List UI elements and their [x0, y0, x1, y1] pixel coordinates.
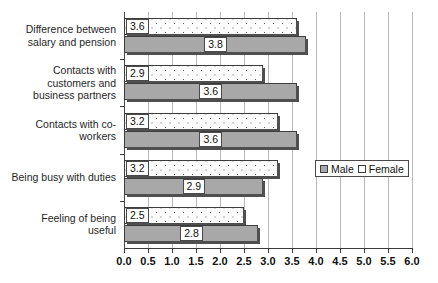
category-label: Feeling of beinguseful [0, 212, 116, 237]
legend-label-male: Male [331, 163, 354, 175]
legend-label-female: Female [369, 163, 404, 175]
legend-swatch-male-icon [320, 165, 328, 173]
category-label: Contacts with co-workers [0, 118, 116, 143]
category-label: Difference betweensalary and pension [0, 23, 116, 48]
group-separator [120, 106, 125, 107]
x-tick [340, 249, 341, 253]
group-separator [120, 154, 125, 155]
legend-entry-female: Female [358, 163, 404, 175]
data-label-male: 2.8 [180, 226, 203, 241]
bar-chart: Difference betweensalary and pensionCont… [0, 0, 438, 283]
x-tick [412, 249, 413, 253]
category-label: Being busy with duties [0, 171, 116, 184]
x-tick [316, 249, 317, 253]
legend-entry-male: Male [320, 163, 354, 175]
data-label-female: 2.5 [126, 208, 149, 223]
x-tick-label: 6.0 [392, 255, 432, 267]
x-tick [364, 249, 365, 253]
x-tick [172, 249, 173, 253]
data-label-female: 2.9 [126, 66, 149, 81]
x-tick [148, 249, 149, 253]
group-separator [120, 59, 125, 60]
category-label: Contacts withcustomers andbusiness partn… [0, 64, 116, 102]
chart-legend: Male Female [315, 160, 409, 177]
category-axis: Difference betweensalary and pensionCont… [0, 0, 120, 248]
gridline [340, 12, 341, 248]
x-tick [292, 249, 293, 253]
data-label-female: 3.2 [126, 114, 149, 129]
x-tick [220, 249, 221, 253]
x-tick [244, 249, 245, 253]
plot-area: 3.63.82.93.63.23.63.22.92.52.8 [124, 12, 412, 248]
data-label-male: 2.9 [183, 179, 206, 194]
data-label-female: 3.2 [126, 161, 149, 176]
gridline [388, 12, 389, 248]
data-label-male: 3.6 [199, 84, 222, 99]
x-tick [124, 249, 125, 253]
legend-swatch-female-icon [358, 165, 366, 173]
data-label-male: 3.8 [204, 37, 227, 52]
x-tick [388, 249, 389, 253]
gridline [412, 12, 413, 248]
gridline [364, 12, 365, 248]
x-tick [268, 249, 269, 253]
gridline [316, 12, 317, 248]
group-separator [120, 201, 125, 202]
data-label-male: 3.6 [199, 132, 222, 147]
x-tick [196, 249, 197, 253]
bar-female [124, 18, 297, 35]
data-label-female: 3.6 [126, 19, 149, 34]
